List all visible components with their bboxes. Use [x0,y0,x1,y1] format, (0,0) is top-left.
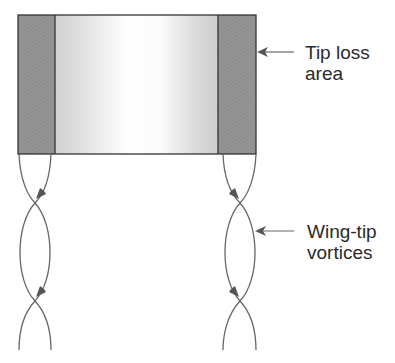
vortices-label-line2: vortices [307,242,377,263]
right-tip-loss-area [218,15,256,154]
tip-loss-label-line1: Tip loss [305,42,370,63]
arrow-icon [36,286,46,297]
tip-loss-label-line2: area [305,63,370,84]
left-wing-tip-vortex [19,154,51,350]
wing-center-area [55,15,218,154]
right-wing-tip-vortex [223,154,256,350]
vortices-callout-arrow [255,226,294,236]
tip-loss-label: Tip loss area [305,42,370,84]
left-tip-loss-area [18,15,55,154]
tip-loss-callout-arrow [257,47,294,57]
wing-tip-vortices-label: Wing-tip vortices [307,221,377,263]
arrow-icon [229,286,239,297]
vortices-label-line1: Wing-tip [307,221,377,242]
wing [18,15,256,154]
